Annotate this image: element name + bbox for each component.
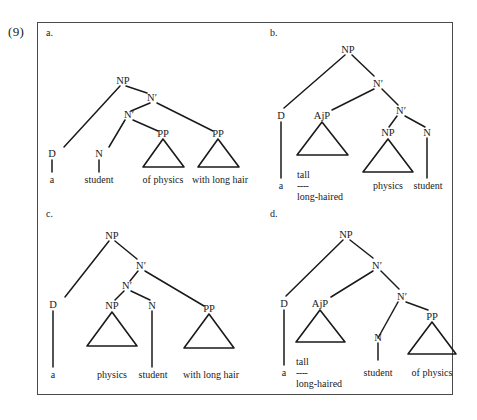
tree-d-noun: N: [374, 332, 382, 343]
tree-c-label: c.: [46, 208, 53, 219]
figure-root: (9) a. NP N′ N′ D N PP PP: [0, 0, 477, 420]
tree-a-noun: N: [95, 148, 103, 159]
tree-b-leaf-long-haired: long-haired: [297, 191, 343, 202]
edge-np-to-d: [65, 241, 109, 297]
tree-c-np-inner: NP: [105, 300, 119, 311]
tree-a-leaf-with-long-hair: with long hair: [192, 174, 249, 185]
edge-nbar-to-ajp: [331, 271, 373, 297]
triangle-pp-with-long-hair: [198, 139, 239, 167]
tree-b-ajp: AjP: [314, 110, 331, 121]
triangle-pp-of-physics: [143, 139, 184, 167]
tree-c-det: D: [49, 299, 57, 310]
tree-b-leaf-physics: physics: [373, 180, 403, 191]
edge-nbarlower-to-n: [109, 120, 125, 147]
edge-nbar-to-pp2: [157, 103, 213, 131]
tree-a-nbar-upper: N′: [147, 92, 157, 103]
tree-b-leaf-tall: tall: [297, 169, 310, 180]
edge-np-to-nbar: [350, 240, 373, 258]
tree-c-leaf-a: a: [51, 369, 56, 380]
edge-nbarlower-to-pp1: [133, 120, 158, 131]
tree-a-label: a.: [46, 27, 53, 38]
tree-d-pp: PP: [426, 311, 438, 322]
tree-b-noun: N: [423, 127, 431, 138]
tree-b-label: b.: [270, 27, 278, 38]
tree-c-leaf-student: student: [139, 369, 168, 380]
tree-d-leaf-a: a: [282, 367, 287, 378]
tree-d-root-np: NP: [339, 229, 353, 240]
triangle-np-physics: [363, 139, 413, 172]
tree-c-noun: N: [148, 300, 156, 311]
triangle-ajp-tall: [297, 122, 348, 155]
tree-d-leaf-dash: ----: [296, 367, 307, 378]
tree-a-pp-second: PP: [212, 128, 224, 139]
tree-c-pp: PP: [203, 303, 215, 314]
tree-d-label: d.: [270, 208, 278, 219]
tree-c-root-np: NP: [105, 230, 119, 241]
edge-nbarlower-to-n: [405, 116, 425, 127]
tree-d-leaf-student: student: [364, 367, 393, 378]
edge-nbarlower-to-np: [389, 116, 397, 127]
tree-b-leaf-a: a: [279, 180, 284, 191]
tree-a-leaf-a: a: [50, 174, 55, 185]
tree-b-np-inner: NP: [381, 127, 395, 138]
edge-np-to-nbar: [352, 55, 374, 76]
edge-nbarlower-to-np: [115, 291, 124, 300]
tree-b-det: D: [277, 110, 285, 121]
edge-nbarlower-to-n: [131, 291, 150, 300]
tree-c-nbar-upper: N′: [136, 260, 146, 271]
tree-b-nbar-upper: N′: [373, 78, 383, 89]
tree-c-leaf-with-long-hair: with long hair: [183, 369, 240, 380]
tree-b-root-np: NP: [341, 44, 355, 55]
edge-nbar-to-nbarlower: [382, 89, 398, 105]
edge-np-to-d: [64, 86, 120, 147]
tree-b-leaf-dash: ----: [297, 180, 308, 191]
triangle-np-physics: [87, 312, 137, 346]
tree-a-nbar-lower: N′: [124, 109, 134, 120]
tree-d-nbar-upper: N′: [372, 260, 382, 271]
edge-nbar-to-nbarlower: [381, 271, 399, 289]
edge-np-to-d: [284, 55, 345, 108]
tree-a-det: D: [48, 148, 56, 159]
tree-a-root-np: NP: [116, 75, 130, 86]
edge-nbarlower-to-pp: [406, 302, 428, 310]
edge-np-to-nbar: [126, 86, 147, 93]
tree-c-nbar-lower: N′: [122, 280, 132, 291]
edge-np-to-nbar: [115, 241, 137, 259]
tree-a-leaf-student: student: [85, 174, 114, 185]
tree-a-pp-first: PP: [157, 128, 169, 139]
tree-d-leaf-of-physics: of physics: [412, 367, 453, 378]
tree-d: d. NP N′ N′ D AjP N PP a tall ----: [270, 208, 456, 389]
tree-d-ajp: AjP: [312, 298, 329, 309]
triangle-pp-of-physics: [408, 322, 456, 354]
tree-a-leaf-of-physics: of physics: [143, 174, 184, 185]
triangle-ajp-tall: [296, 310, 345, 342]
syntax-trees-canvas: a. NP N′ N′ D N PP PP a student of phy: [0, 0, 477, 420]
tree-b-nbar-lower: N′: [396, 105, 406, 116]
edge-nbar-to-ajp: [332, 89, 374, 110]
tree-b-leaf-student: student: [414, 180, 443, 191]
tree-a: a. NP N′ N′ D N PP PP a student of phy: [46, 27, 249, 185]
tree-d-nbar-lower: N′: [397, 291, 407, 302]
tree-b: b. NP N′ D AjP N′ NP N a tall ----: [270, 27, 443, 202]
tree-c-leaf-physics: physics: [97, 369, 127, 380]
tree-d-leaf-long-haired: long-haired: [296, 378, 342, 389]
edge-np-to-d: [286, 240, 343, 296]
tree-d-leaf-tall: tall: [296, 356, 309, 367]
tree-d-det: D: [280, 298, 288, 309]
tree-c: c. NP N′ N′ D NP N PP a physics studen: [46, 208, 240, 380]
triangle-pp-with-long-hair: [184, 314, 234, 348]
